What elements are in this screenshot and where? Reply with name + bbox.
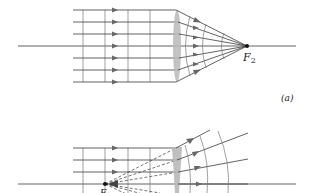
panel-b: F1 xyxy=(18,130,296,193)
focal-point-f1 xyxy=(103,182,107,186)
ray-arrows-out-b xyxy=(186,138,202,187)
focal-label-f2: F2 xyxy=(242,51,256,65)
optics-diagram: F2 (a) xyxy=(0,0,324,193)
ray-arrows-in-a xyxy=(112,8,118,85)
focal-point-f2 xyxy=(245,44,249,48)
diverging-rays-b xyxy=(176,130,248,184)
focal-label-f1: F1 xyxy=(99,188,111,193)
panel-label-a: (a) xyxy=(281,93,294,103)
diverging-lens-b xyxy=(172,147,182,193)
parallel-rays-b xyxy=(73,148,178,172)
ray-arrows-in-b xyxy=(112,146,118,175)
converging-lens-a xyxy=(173,10,181,82)
ray-fan-head-b xyxy=(108,180,118,188)
panel-a: F2 (a) xyxy=(18,8,296,104)
